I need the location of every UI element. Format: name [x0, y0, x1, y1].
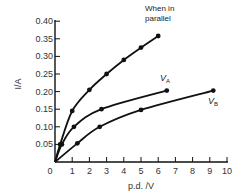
y-axis-ticks: 0.050.100.150.200.250.300.350.40 — [35, 16, 60, 149]
x-tick-label: 2 — [87, 166, 92, 176]
x-tick-label: 1 — [70, 166, 75, 176]
y-tick-label: 0.30 — [35, 51, 53, 61]
parallel-label-line-1: When in — [145, 4, 174, 13]
y-tick-label: 0.25 — [35, 69, 53, 79]
data-point-marker — [97, 124, 102, 129]
va-label-sub: A — [166, 78, 170, 84]
data-point-marker — [121, 58, 126, 63]
va-label: VA — [160, 73, 170, 84]
iv-characteristic-chart: 0.050.100.150.200.250.300.350.40 I/A 012… — [0, 0, 239, 196]
series-va — [55, 88, 169, 162]
y-tick-label: 0.40 — [35, 16, 53, 26]
x-tick-label: 9 — [207, 166, 212, 176]
data-point-marker — [139, 45, 144, 50]
x-tick-label: 7 — [173, 166, 178, 176]
y-tick-label: 0.20 — [35, 87, 53, 97]
x-axis: 012345678910 p.d. /V — [47, 157, 232, 191]
y-tick-label: 0.05 — [35, 139, 53, 149]
x-tick-label: 4 — [121, 166, 126, 176]
x-axis-ticks: 012345678910 — [47, 157, 232, 176]
y-axis-title: I/A — [13, 78, 23, 89]
data-point-marker — [156, 34, 161, 39]
data-point-marker — [75, 141, 80, 146]
data-point-marker — [87, 87, 92, 92]
parallel-label-line-2: parallel — [145, 14, 171, 23]
data-point-marker — [99, 107, 104, 112]
x-tick-label: 3 — [104, 166, 109, 176]
x-tick-label: 6 — [156, 166, 161, 176]
curve-parallel — [55, 36, 158, 162]
x-tick-label: 8 — [190, 166, 195, 176]
data-point-marker — [70, 109, 75, 114]
y-tick-label: 0.15 — [35, 104, 53, 114]
data-point-marker — [59, 142, 64, 147]
vb-label-sub: B — [214, 101, 218, 107]
data-point-marker — [104, 72, 109, 77]
vb-label: VB — [208, 96, 218, 107]
data-point-marker — [72, 124, 77, 129]
x-tick-label: 5 — [138, 166, 143, 176]
data-point-marker — [211, 88, 216, 93]
y-tick-label: 0.35 — [35, 34, 53, 44]
x-tick-label: 10 — [222, 166, 232, 176]
data-series — [55, 34, 216, 162]
y-tick-label: 0.10 — [35, 122, 53, 132]
x-tick-label: 0 — [47, 166, 52, 176]
data-point-marker — [139, 108, 144, 113]
data-point-marker — [164, 88, 169, 93]
x-axis-title: p.d. /V — [128, 181, 154, 191]
series-parallel — [55, 34, 161, 162]
y-axis: 0.050.100.150.200.250.300.350.40 I/A — [13, 16, 60, 162]
